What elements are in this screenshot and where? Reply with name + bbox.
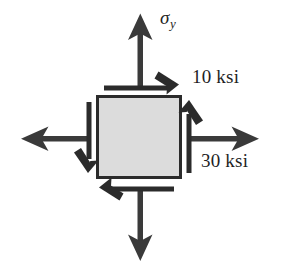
stress-element-canvas: [0, 0, 284, 268]
label-sigma-y: σy: [160, 8, 176, 30]
label-shear-stress-10-ksi: 10 ksi: [192, 67, 239, 86]
normal-stress-arrow-bottom: [128, 189, 153, 261]
stress-element-square: [98, 97, 181, 178]
sigma-symbol: σ: [160, 7, 169, 28]
sigma-subscript: y: [169, 16, 175, 31]
stress-element-diagram: σy 10 ksi 30 ksi: [0, 0, 284, 268]
normal-stress-arrow-top: [128, 14, 153, 90]
label-normal-stress-30-ksi: 30 ksi: [201, 151, 248, 170]
normal-stress-arrow-left: [21, 127, 89, 152]
shear-stress-arrow-bottom: [99, 178, 174, 201]
normal-stress-arrow-right: [191, 127, 259, 152]
